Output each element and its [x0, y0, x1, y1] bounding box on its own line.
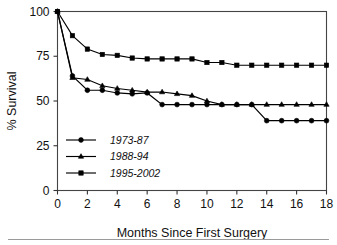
legend-square-marker — [79, 171, 83, 175]
y-tick-label-50: 50 — [36, 94, 50, 108]
data-point-1995-2002-m17 — [309, 63, 313, 67]
y-tick-label-75: 75 — [36, 49, 50, 63]
x-tick-label-8: 8 — [174, 197, 181, 211]
y-axis-title: % Survival — [5, 71, 19, 130]
legend-item-1995-2002: 1995-2002 — [66, 167, 160, 179]
data-point-1995-2002-m4 — [115, 53, 119, 57]
legend-item-1988-94: 1988-94 — [66, 150, 149, 162]
series-1995-2002 — [55, 9, 328, 67]
data-series-layer — [55, 9, 329, 123]
data-point-1973-87-m18 — [324, 118, 329, 123]
x-tick-label-12: 12 — [230, 197, 244, 211]
legend-label-1973-87: 1973-87 — [110, 134, 150, 146]
plot-frame — [58, 12, 327, 191]
data-point-1973-87-m2 — [85, 88, 90, 93]
x-tick-label-4: 4 — [114, 197, 121, 211]
data-point-1973-87-m17 — [309, 118, 314, 123]
legend-circle-marker — [79, 138, 84, 143]
y-axis-tick-labels: 0255075100 — [29, 5, 49, 198]
data-point-1995-2002-m11 — [220, 60, 224, 64]
data-point-1973-87-m3 — [100, 88, 105, 93]
legend-label-1988-94: 1988-94 — [110, 150, 149, 162]
data-point-1995-2002-m3 — [100, 52, 104, 56]
data-point-1973-87-m7 — [160, 102, 165, 107]
data-point-1995-2002-m16 — [294, 63, 298, 67]
x-tick-label-2: 2 — [84, 197, 91, 211]
data-point-1995-2002-m14 — [265, 63, 269, 67]
data-point-1995-2002-m18 — [324, 63, 328, 67]
footer-divider — [8, 239, 329, 240]
legend-item-1973-87: 1973-87 — [66, 134, 150, 146]
x-axis-tick-labels: 024681012141618 — [54, 197, 333, 211]
data-point-1995-2002-m7 — [160, 57, 164, 61]
chart-canvas: 0255075100 024681012141618 1973-871988-9… — [0, 0, 337, 245]
data-point-1973-87-m15 — [279, 118, 284, 123]
data-point-1995-2002-m5 — [130, 56, 134, 60]
x-tick-label-14: 14 — [260, 197, 274, 211]
data-point-1995-2002-m6 — [145, 57, 149, 61]
x-axis-ticks — [58, 191, 327, 195]
x-tick-label-16: 16 — [290, 197, 304, 211]
chart-legend: 1973-871988-941995-2002 — [66, 134, 160, 179]
data-point-1995-2002-m1 — [70, 33, 74, 37]
x-tick-label-6: 6 — [144, 197, 151, 211]
data-point-1973-87-m16 — [294, 118, 299, 123]
data-point-1995-2002-m9 — [190, 57, 194, 61]
legend-label-1995-2002: 1995-2002 — [110, 167, 160, 179]
x-tick-label-10: 10 — [200, 197, 214, 211]
y-tick-label-100: 100 — [29, 5, 49, 19]
survival-chart-figure: 0255075100 024681012141618 1973-871988-9… — [0, 0, 337, 245]
y-tick-label-25: 25 — [36, 139, 50, 153]
series-1973-87 — [55, 9, 329, 123]
data-point-1995-2002-m12 — [235, 63, 239, 67]
data-point-1973-87-m9 — [190, 102, 195, 107]
x-tick-label-18: 18 — [320, 197, 334, 211]
data-point-1973-87-m4 — [115, 91, 120, 96]
data-point-1995-2002-m15 — [279, 63, 283, 67]
data-point-1973-87-m14 — [264, 118, 269, 123]
data-point-1973-87-m8 — [175, 102, 180, 107]
y-axis-ticks — [54, 12, 58, 191]
data-point-1995-2002-m13 — [250, 63, 254, 67]
data-point-1995-2002-m10 — [205, 60, 209, 64]
data-point-1995-2002-m0 — [55, 9, 59, 13]
y-tick-label-0: 0 — [43, 184, 50, 198]
data-point-1995-2002-m8 — [175, 57, 179, 61]
x-tick-label-0: 0 — [54, 197, 61, 211]
x-axis-title: Months Since First Surgery — [117, 226, 268, 240]
data-point-1995-2002-m2 — [85, 47, 89, 51]
